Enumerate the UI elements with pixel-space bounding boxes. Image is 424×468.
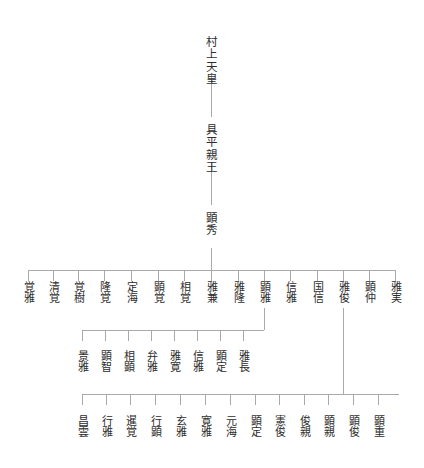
connector-drop-generation_6-9 <box>279 394 280 405</box>
node-g4n6: 顕覚 <box>152 281 164 304</box>
connector-drop-generation_4-2 <box>53 270 54 281</box>
connector-drop-generation_5-3 <box>128 330 129 341</box>
connector-drop-generation_6-1 <box>82 394 83 405</box>
connector-drop-generation_6-10 <box>304 394 305 405</box>
connector-masatoshi-to-bus6 <box>343 308 344 394</box>
connector-drop-generation_4-10 <box>264 270 265 281</box>
connector-drop-generation_6-6 <box>205 394 206 405</box>
connector-akihide-to-bus4 <box>211 248 212 270</box>
node-g5n6: 信雅 <box>191 350 203 373</box>
node-g6n13: 顕重 <box>372 415 384 438</box>
connector-drop-generation_6-5 <box>180 394 181 405</box>
node-g4n7: 相覚 <box>178 281 190 304</box>
node-g6n4: 行顕 <box>149 415 161 438</box>
node-g5n2: 顕智 <box>99 350 111 373</box>
connector-drop-generation_6-13 <box>378 394 379 405</box>
node-g4n3: 覚樹 <box>72 281 84 304</box>
connector-drop-generation_5-1 <box>82 330 83 341</box>
connector-drop-generation_4-15 <box>395 270 396 281</box>
node-g4n9: 雅隆 <box>232 281 244 304</box>
connector-drop-generation_5-2 <box>105 330 106 341</box>
node-g6n1: 昌雲 <box>76 415 88 438</box>
connector-drop-generation_6-3 <box>130 394 131 405</box>
connector-drop-generation_4-14 <box>369 270 370 281</box>
node-g5n5: 雅寛 <box>168 350 180 373</box>
connector-drop-generation_6-2 <box>106 394 107 405</box>
node-g5n1: 景雅 <box>76 350 88 373</box>
connector-generation-5-bus <box>82 330 264 331</box>
node-g6n3: 暹覚 <box>124 415 136 438</box>
node-g6n12: 顕俊 <box>347 415 359 438</box>
node-g6n8: 顕定 <box>249 415 261 438</box>
connector-akimasa-to-bus5 <box>264 308 265 330</box>
connector-drop-generation_4-9 <box>238 270 239 281</box>
connector-drop-generation_5-4 <box>151 330 152 341</box>
node-g6n5: 玄雅 <box>174 415 186 438</box>
node-g6n6: 寛雅 <box>199 415 211 438</box>
node-g6n7: 元海 <box>224 415 236 438</box>
connector-drop-generation_5-6 <box>197 330 198 341</box>
connector-drop-generation_4-3 <box>78 270 79 281</box>
node-g4n15: 雅実 <box>389 281 401 304</box>
node-g4n13: 雅俊 <box>337 281 349 304</box>
node-g4n4: 隆覚 <box>98 281 110 304</box>
node-g4n12: 国信 <box>311 281 323 304</box>
node-g5n3: 相顕 <box>122 350 134 373</box>
node-g3n1: 顕秀 <box>205 212 217 237</box>
connector-drop-generation_5-7 <box>220 330 221 341</box>
node-g6n2: 行雅 <box>100 415 112 438</box>
node-g4n10: 顕雅 <box>258 281 270 304</box>
connector-drop-generation_4-12 <box>317 270 318 281</box>
connector-drop-generation_6-12 <box>353 394 354 405</box>
connector-drop-generation_4-13 <box>343 270 344 281</box>
connector-drop-generation_4-1 <box>28 270 29 281</box>
node-g4n11: 信雅 <box>284 281 296 304</box>
node-g4n8: 雅兼 <box>205 281 217 304</box>
node-g4n5: 定海 <box>125 281 137 304</box>
node-g4n1: 覚雅 <box>22 281 34 304</box>
connector-drop-generation_4-7 <box>184 270 185 281</box>
connector-drop-generation_6-11 <box>328 394 329 405</box>
node-g4n2: 清覚 <box>47 281 59 304</box>
genealogy-diagram: 村上天皇具平親王顕秀覚雅清覚覚樹隆覚定海顕覚相覚雅兼雅隆顕雅信雅国信雅俊顕仲雅実… <box>0 0 424 468</box>
connector-drop-generation_5-8 <box>243 330 244 341</box>
node-g6n11: 顕親 <box>322 415 334 438</box>
connector-drop-generation_4-5 <box>131 270 132 281</box>
node-g5n8: 雅長 <box>237 350 249 373</box>
connector-drop-generation_6-7 <box>230 394 231 405</box>
node-g5n7: 顕定 <box>214 350 226 373</box>
node-g2n1: 具平親王 <box>205 124 217 174</box>
connector-drop-generation_4-6 <box>158 270 159 281</box>
connector-drop-generation_4-4 <box>104 270 105 281</box>
connector-drop-generation_6-8 <box>255 394 256 405</box>
connector-drop-generation_5-5 <box>174 330 175 341</box>
connector-drop-generation_4-8 <box>211 270 212 281</box>
node-g5n4: 弁雅 <box>145 350 157 373</box>
node-g4n14: 顕仲 <box>363 281 375 304</box>
node-g6n9: 憲俊 <box>273 415 285 438</box>
node-g1n1: 村上天皇 <box>205 36 217 86</box>
connector-drop-generation_4-11 <box>290 270 291 281</box>
connector-drop-generation_6-4 <box>155 394 156 405</box>
node-g6n10: 俊親 <box>298 415 310 438</box>
